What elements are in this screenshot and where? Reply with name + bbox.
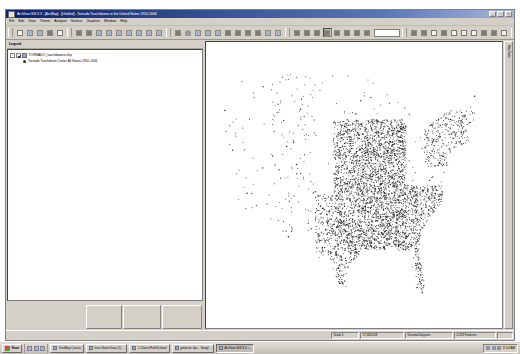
draw-point-icon-glyph [411,30,417,36]
menu-item-view[interactable]: View [28,18,35,25]
task-button[interactable]: TornMap Course [50,344,84,353]
picture-frame-icon[interactable] [500,28,509,37]
theme-properties-icon[interactable] [85,28,94,37]
legend-theme-row[interactable]: - TORNADO_touchdowns.shp [10,53,200,58]
locate-address-icon[interactable] [135,28,144,37]
volume-icon[interactable] [486,346,490,350]
minimize-button[interactable]: _ [489,11,496,17]
find-icon[interactable] [125,28,134,37]
geoprocessing-icon[interactable] [224,28,233,37]
point-symbol-icon [23,60,26,63]
symbol-class-label: Tornado Touchdown Center All States 1950… [28,59,97,63]
folder-icon [132,346,136,350]
script-icon[interactable] [254,28,263,37]
table-tab-button[interactable] [123,305,161,329]
menu-item-window[interactable]: Window [104,18,116,25]
point-theme-icon [22,53,27,58]
toolbar-grip[interactable] [285,28,290,37]
full-extent-icon[interactable] [363,28,372,37]
label-icon[interactable] [313,28,322,37]
task-button-active[interactable]: ArcView GIS 3.3 -... [216,344,254,353]
task-button[interactable]: C:\Users\Path\Default [129,344,170,353]
select-features-icon[interactable] [194,28,203,37]
start-button[interactable]: Start [2,344,22,353]
open-table-icon[interactable] [105,28,114,37]
legend-symbol-row[interactable]: Tornado Touchdown Center All States 1950… [23,59,200,63]
clock[interactable]: 11:04 AM [503,344,515,353]
page-setup-icon[interactable] [56,28,65,37]
legend-header: Legend [7,41,203,49]
window-title-bar[interactable]: ArcView GIS 3.3 - [ArcMap] - [Untitled] … [6,10,514,18]
status-scale-value[interactable]: 17,634,918 [360,332,404,339]
menu-item-graphics[interactable]: Graphics [87,18,101,25]
antivirus-icon[interactable] [497,346,501,350]
layout-icon[interactable] [244,28,253,37]
identify-icon-glyph [354,30,360,36]
draw-point-icon[interactable] [410,28,419,37]
status-progress [497,332,513,339]
zoom-in-icon[interactable] [323,28,332,37]
save-icon[interactable] [36,28,45,37]
north-arrow-icon[interactable] [470,28,479,37]
scalebar-icon[interactable] [480,28,489,37]
task-button[interactable]: Intro Storm Data (1) ... [86,344,127,353]
view-tab-button[interactable] [86,305,122,329]
hotlink-icon[interactable] [264,28,273,37]
open-table-icon-glyph [106,30,112,36]
scale-combo-box[interactable] [374,29,400,37]
summarize-icon[interactable] [155,28,164,37]
identify-icon[interactable] [353,28,362,37]
menu-item-analysis[interactable]: Analysis [54,18,67,25]
join-icon[interactable] [145,28,154,37]
client-area: Legend - TORNADO_touchdowns.shp Tornado … [6,40,514,330]
pan-icon[interactable] [343,28,352,37]
expand-collapse-icon[interactable]: - [10,53,15,58]
browser-icon[interactable] [34,346,39,351]
measure-icon[interactable] [274,28,283,37]
map-tasks-side-tab[interactable]: Map Tasks [504,41,513,329]
window-control-buttons: _ □ × [489,11,512,17]
menu-item-theme[interactable]: Theme [40,18,51,25]
draw-circle-icon[interactable] [420,28,429,37]
legend-editor-icon[interactable] [95,28,104,37]
legend-frame-icon[interactable] [490,28,499,37]
map-canvas[interactable] [205,41,503,329]
theme-visibility-checkbox[interactable] [16,53,21,58]
add-theme-icon[interactable] [75,28,84,37]
network-icon[interactable] [492,346,496,350]
chart-icon[interactable] [234,28,243,37]
summarize-icon-glyph [156,30,162,36]
buffer-icon[interactable] [214,28,223,37]
query-builder-icon[interactable] [115,28,124,37]
legend-tree[interactable]: - TORNADO_touchdowns.shp Tornado Touchdo… [7,49,203,301]
zoom-out-icon[interactable] [333,28,342,37]
mail-icon[interactable] [40,346,45,351]
toolbar-grip[interactable] [402,28,407,37]
menu-item-help[interactable]: Help [120,18,127,25]
pointer-icon[interactable] [293,28,302,37]
task-button[interactable]: gmtw lec.doc - Googl... [172,344,214,353]
callout-icon[interactable] [450,28,459,37]
heart-symbol-icon[interactable] [184,28,193,37]
select-by-theme-icon[interactable] [204,28,213,37]
print-icon[interactable] [46,28,55,37]
text-tool-icon[interactable] [440,28,449,37]
vertex-edit-icon[interactable] [303,28,312,37]
toolbar-grip[interactable] [511,28,514,37]
maximize-button[interactable]: □ [497,11,504,17]
toolbar-grip[interactable] [166,28,171,37]
chart-tab-button[interactable] [162,305,202,329]
open-folder-icon[interactable] [26,28,35,37]
new-document-icon[interactable] [16,28,25,37]
clear-selection-icon[interactable] [174,28,183,37]
status-feature-count: 4,253 Features [454,332,496,339]
toolbar-grip[interactable] [8,28,13,37]
close-button[interactable]: × [505,11,512,17]
neatline-icon[interactable] [460,28,469,37]
menu-item-edit[interactable]: Edit [18,18,24,25]
toolbar-grip[interactable] [67,28,72,37]
menu-item-surface[interactable]: Surface [71,18,83,25]
draw-rectangle-icon[interactable] [430,28,439,37]
menu-item-file[interactable]: File [9,18,14,25]
show-desktop-icon[interactable] [27,346,32,351]
